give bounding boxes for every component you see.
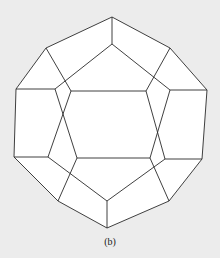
figure-caption: (b): [0, 236, 220, 247]
dodecahedron-diagram: [0, 0, 220, 258]
outer-silhouette: [14, 17, 207, 228]
